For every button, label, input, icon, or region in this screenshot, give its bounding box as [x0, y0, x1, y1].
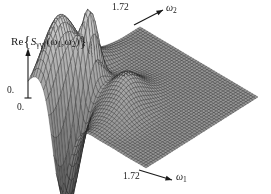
omega2-axis-label: ω2 [166, 3, 177, 15]
omega1-subscript: 1 [183, 175, 187, 184]
figure-container: Re{Sγγγ(ω1,ω2)} 0. 0. 1.72 1.72 ω2 ω1 [0, 0, 271, 194]
z-axis-omega1: ω [50, 35, 57, 47]
z-axis-omega2: ω [64, 35, 71, 47]
z-axis-brace-close: } [79, 33, 86, 49]
z-axis-re-text: Re [11, 35, 23, 47]
omega1-glyph: ω [176, 171, 183, 182]
z-axis-brace-open: { [23, 33, 30, 49]
omega1-axis-label: ω1 [176, 172, 187, 184]
origin-zero-tick: 0. [17, 103, 24, 113]
omega2-subscript: 2 [173, 6, 177, 15]
omega2-glyph: ω [166, 2, 173, 13]
z-axis-label: Re{Sγγγ(ω1,ω2)} [11, 34, 87, 49]
omega2-max-tick: 1.72 [112, 3, 129, 13]
surface-plot-canvas [0, 0, 271, 194]
z-axis-zero-tick: 0. [7, 86, 14, 96]
z-axis-gamma-subscript: γγγ [36, 40, 46, 49]
omega1-max-tick: 1.72 [123, 172, 140, 182]
